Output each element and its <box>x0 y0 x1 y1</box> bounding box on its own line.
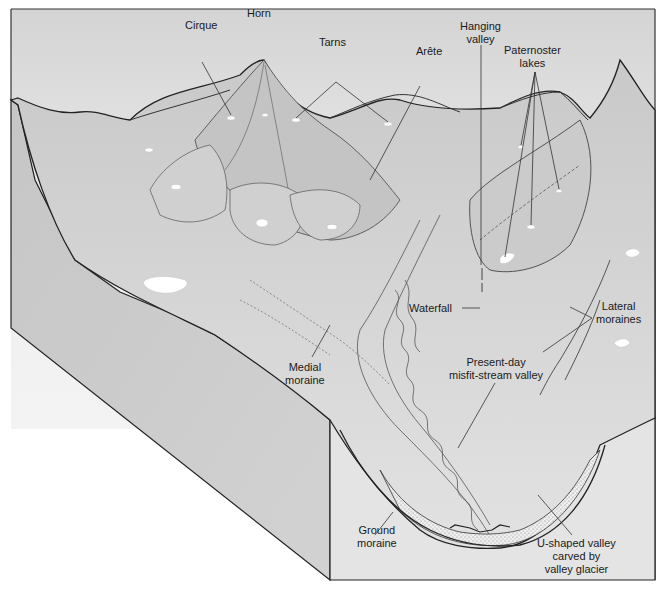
label-ground-moraine: Ground moraine <box>357 524 397 550</box>
tarn-lake <box>384 122 392 126</box>
label-waterfall: Waterfall <box>409 302 452 315</box>
label-tarns: Tarns <box>319 36 346 49</box>
label-hanging-valley: Hanging valley <box>460 20 501 46</box>
label-u-shaped-valley: U-shaped valley carved by valley glacier <box>537 537 616 576</box>
label-horn: Horn <box>247 7 271 20</box>
lake <box>327 225 337 230</box>
label-cirque: Cirque <box>185 19 217 32</box>
label-medial-moraine: Medial moraine <box>285 361 325 387</box>
lake <box>171 185 181 190</box>
lake <box>145 148 153 152</box>
label-lateral-moraines: Lateral moraines <box>596 300 641 326</box>
tarn-lake <box>262 114 268 117</box>
tarn-lake <box>227 116 235 120</box>
paternoster-lake <box>527 225 535 229</box>
label-arete: Arête <box>416 45 442 58</box>
label-paternoster-lakes: Paternoster lakes <box>504 44 561 70</box>
label-misfit-stream-valley: Present-day misfit-stream valley <box>449 356 543 382</box>
lake <box>256 219 268 227</box>
paternoster-lake <box>556 190 562 193</box>
glacial-landforms-diagram <box>0 0 666 590</box>
tarn-lake <box>292 118 300 122</box>
